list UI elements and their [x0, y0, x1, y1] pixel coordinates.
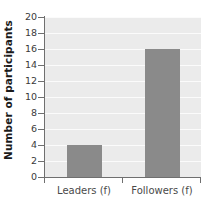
y-axis-tick-mark — [38, 113, 44, 114]
y-axis-tick-mark — [38, 49, 44, 50]
x-axis-category-label: Followers (f) — [131, 186, 192, 196]
y-axis-tick-label: 8 — [31, 108, 37, 118]
y-axis-tick-mark — [38, 33, 44, 34]
y-axis-tick-label: 20 — [25, 12, 37, 22]
x-axis-tick-mark — [44, 178, 45, 183]
y-axis-tick-label: 2 — [31, 156, 37, 166]
bar — [67, 145, 102, 177]
y-axis-tick-label: 10 — [25, 92, 37, 102]
y-axis-tick-mark — [38, 177, 44, 178]
y-axis-title-text: Number of participants — [2, 20, 14, 160]
y-axis-tick-label: 18 — [25, 28, 37, 38]
y-axis-tick-mark — [38, 97, 44, 98]
bar-chart: Number of participants 02468101214161820… — [0, 0, 212, 209]
y-axis-tick-mark — [38, 65, 44, 66]
plot-area — [45, 17, 201, 177]
x-axis-category-label: Leaders (f) — [57, 186, 111, 196]
y-axis-tick-label: 4 — [31, 140, 37, 150]
y-axis-tick-label: 16 — [25, 44, 37, 54]
y-axis-tick-labels: 02468101214161820 — [16, 17, 40, 177]
x-axis-tick-mark — [122, 178, 123, 183]
y-axis-tick-mark — [38, 17, 44, 18]
bar — [145, 49, 180, 177]
y-axis-tick-label: 14 — [25, 60, 37, 70]
y-axis-tick-label: 0 — [31, 172, 37, 182]
y-axis-tick-label: 6 — [31, 124, 37, 134]
y-axis-title: Number of participants — [0, 0, 16, 180]
y-axis-tick-mark — [38, 129, 44, 130]
gridline — [45, 17, 201, 18]
y-axis-tick-mark — [38, 161, 44, 162]
y-axis-tick-label: 12 — [25, 76, 37, 86]
y-axis-tick-mark — [38, 145, 44, 146]
gridline — [45, 33, 201, 34]
x-axis-tick-mark — [200, 178, 201, 183]
y-axis-tick-mark — [38, 81, 44, 82]
